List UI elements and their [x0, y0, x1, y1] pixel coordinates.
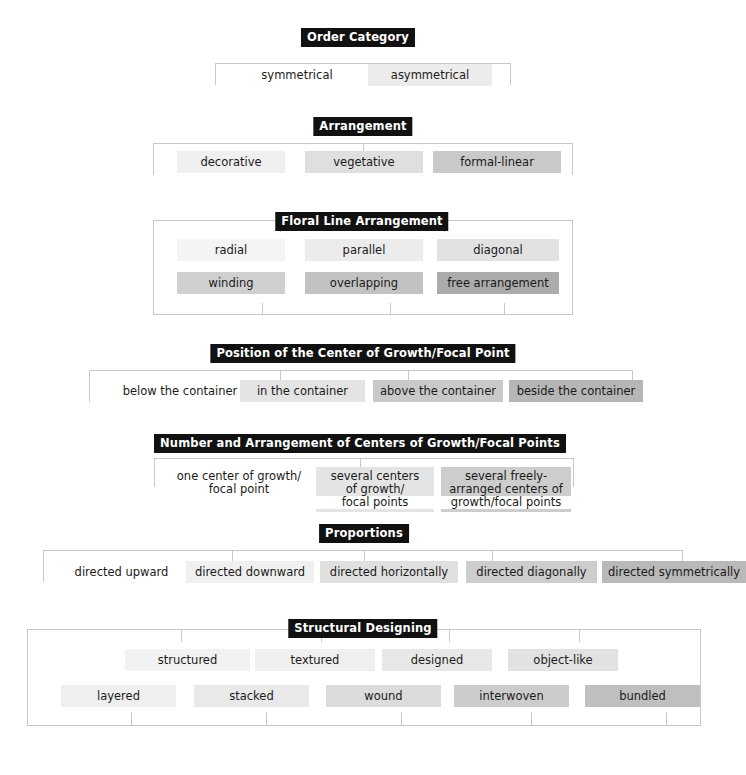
- item-label: directed horizontally: [320, 561, 458, 583]
- section-structural-designing: Structural Designing structured textured…: [26, 612, 702, 732]
- item-label: symmetrical: [235, 64, 359, 86]
- section-floral-line-arrangement: Floral Line Arrangement radial parallel …: [152, 206, 574, 316]
- item-directed-downward[interactable]: directed downward: [186, 561, 314, 583]
- item-label-wrap: several centers of growth/ focal points: [316, 467, 434, 512]
- section-title-arrangement: Arrangement: [313, 117, 412, 136]
- item-directed-symmetrically[interactable]: directed symmetrically: [602, 561, 746, 583]
- item-label: above the container: [373, 380, 503, 402]
- section-title-structural-designing: Structural Designing: [288, 619, 437, 638]
- item-interwoven[interactable]: interwoven: [454, 685, 569, 707]
- section-title-floral-line-arrangement: Floral Line Arrangement: [275, 212, 448, 231]
- item-label: asymmetrical: [368, 64, 492, 86]
- item-radial[interactable]: radial: [177, 239, 285, 261]
- item-label: overlapping: [305, 272, 423, 294]
- item-overlapping[interactable]: overlapping: [305, 272, 423, 294]
- item-label: textured: [255, 649, 375, 671]
- item-label: directed symmetrically: [602, 561, 746, 583]
- item-label: radial: [177, 239, 285, 261]
- item-line-3: growth/focal points: [441, 496, 571, 509]
- item-label: object-like: [508, 649, 618, 671]
- item-label: parallel: [305, 239, 423, 261]
- item-label: layered: [61, 685, 176, 707]
- item-label: directed upward: [60, 561, 183, 583]
- item-vegetative[interactable]: vegetative: [305, 151, 423, 173]
- item-object-like[interactable]: object-like: [508, 649, 618, 671]
- item-label: interwoven: [454, 685, 569, 707]
- item-label: diagonal: [437, 239, 559, 261]
- section-title-position-center-growth: Position of the Center of Growth/Focal P…: [210, 344, 515, 363]
- item-structured[interactable]: structured: [125, 649, 250, 671]
- item-label-wrap: several freely- arranged centers of grow…: [441, 467, 571, 512]
- item-stacked[interactable]: stacked: [194, 685, 309, 707]
- item-directed-diagonally[interactable]: directed diagonally: [466, 561, 597, 583]
- item-winding[interactable]: winding: [177, 272, 285, 294]
- section-title-number-arrangement-centers: Number and Arrangement of Centers of Gro…: [154, 434, 566, 453]
- item-several-centers-of-growth[interactable]: several centers of growth/ focal points: [316, 467, 434, 512]
- section-order-category: Order Category symmetrical asymmetrical: [214, 28, 512, 86]
- section-title-order-category: Order Category: [301, 28, 415, 47]
- item-label: wound: [326, 685, 441, 707]
- item-label: designed: [382, 649, 492, 671]
- item-label: directed downward: [186, 561, 314, 583]
- item-label: in the container: [240, 380, 365, 402]
- item-label: vegetative: [305, 151, 423, 173]
- item-decorative[interactable]: decorative: [177, 151, 285, 173]
- item-diagonal[interactable]: diagonal: [437, 239, 559, 261]
- item-free-arrangement[interactable]: free arrangement: [437, 272, 559, 294]
- item-asymmetrical[interactable]: asymmetrical: [368, 64, 492, 86]
- item-above-the-container[interactable]: above the container: [373, 380, 503, 402]
- item-several-freely-arranged-centers[interactable]: several freely- arranged centers of grow…: [441, 467, 571, 512]
- section-title-proportions: Proportions: [319, 524, 409, 543]
- section-proportions: Proportions directed upward directed dow…: [42, 526, 684, 584]
- item-below-the-container[interactable]: below the container: [108, 380, 252, 402]
- item-formal-linear[interactable]: formal-linear: [433, 151, 561, 173]
- item-line-2: focal point: [165, 483, 313, 496]
- section-arrangement: Arrangement decorative vegetative formal…: [152, 118, 574, 176]
- item-directed-horizontally[interactable]: directed horizontally: [320, 561, 458, 583]
- section-position-center-growth: Position of the Center of Growth/Focal P…: [88, 346, 634, 404]
- item-wound[interactable]: wound: [326, 685, 441, 707]
- section-number-arrangement-centers: Number and Arrangement of Centers of Gro…: [153, 437, 575, 509]
- item-label: directed diagonally: [466, 561, 597, 583]
- item-beside-the-container[interactable]: beside the container: [509, 380, 643, 402]
- item-label: bundled: [585, 685, 700, 707]
- item-directed-upward[interactable]: directed upward: [60, 561, 183, 583]
- item-in-the-container[interactable]: in the container: [240, 380, 365, 402]
- item-label: stacked: [194, 685, 309, 707]
- item-label: formal-linear: [433, 151, 561, 173]
- item-bundled[interactable]: bundled: [585, 685, 700, 707]
- item-label: winding: [177, 272, 285, 294]
- item-parallel[interactable]: parallel: [305, 239, 423, 261]
- item-designed[interactable]: designed: [382, 649, 492, 671]
- item-label-wrap: one center of growth/ focal point: [165, 467, 313, 499]
- item-textured[interactable]: textured: [255, 649, 375, 671]
- item-one-center-of-growth[interactable]: one center of growth/ focal point: [165, 467, 313, 499]
- item-label: structured: [125, 649, 250, 671]
- item-label: free arrangement: [437, 272, 559, 294]
- item-line-3: focal points: [316, 496, 434, 509]
- item-layered[interactable]: layered: [61, 685, 176, 707]
- item-label: below the container: [108, 380, 252, 402]
- item-label: decorative: [177, 151, 285, 173]
- item-label: beside the container: [509, 380, 643, 402]
- item-symmetrical[interactable]: symmetrical: [235, 64, 359, 86]
